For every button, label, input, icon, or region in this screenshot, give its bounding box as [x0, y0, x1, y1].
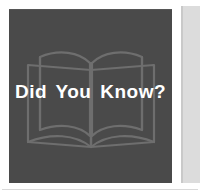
panel-top-highlight: [9, 9, 172, 10]
bottom-divider: [2, 189, 198, 190]
side-column-edge: [181, 6, 183, 183]
did-you-know-callout: Did You Know?: [0, 0, 200, 196]
callout-panel: Did You Know?: [9, 9, 172, 183]
side-column: [181, 6, 200, 183]
page-title: Did You Know?: [9, 81, 172, 103]
